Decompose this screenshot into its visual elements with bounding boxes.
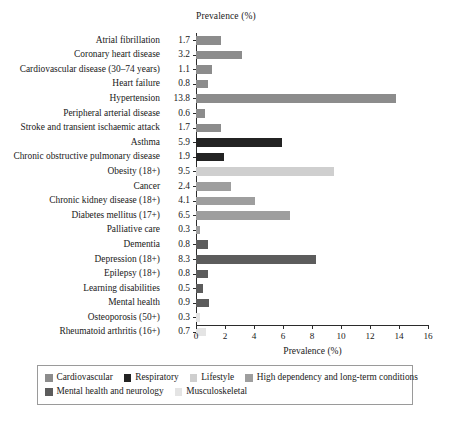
x-tick-label: 16: [423, 331, 432, 341]
x-axis-ticks: 0246810121416: [196, 325, 429, 347]
bar-row: Dementia0.8: [0, 237, 450, 252]
x-tick: [196, 325, 197, 329]
legend-swatch-icon: [245, 374, 253, 382]
category-label: Osteoporosis (50+): [0, 313, 160, 322]
value-label: 0.8: [160, 240, 196, 249]
category-label: Epilepsy (18+): [0, 269, 160, 278]
legend-swatch-icon: [45, 374, 53, 382]
bar-row: Peripheral arterial disease0.6: [0, 106, 450, 121]
category-label: Chronic kidney disease (18+): [0, 196, 160, 205]
x-tick-label: 12: [365, 331, 374, 341]
bar-cell: [196, 267, 450, 282]
bar-cell: [196, 310, 450, 325]
legend-label: Mental health and neurology: [57, 387, 164, 396]
x-tick: [341, 325, 342, 329]
bar-cell: [196, 106, 450, 121]
legend-item[interactable]: Cardiovascular: [45, 373, 113, 382]
category-label: Cancer: [0, 182, 160, 191]
x-tick: [312, 325, 313, 329]
bar: [196, 197, 255, 206]
bar: [196, 124, 221, 133]
x-tick-label: 8: [310, 331, 315, 341]
value-label: 3.2: [160, 50, 196, 59]
bar: [196, 36, 221, 45]
bar-cell: [196, 223, 450, 238]
bar-cell: [196, 135, 450, 150]
bar-rows: Atrial fibrillation1.7Coronary heart dis…: [0, 33, 450, 325]
bar-row: Chronic obstructive pulmonary disease1.9: [0, 150, 450, 165]
bar-cell: [196, 194, 450, 209]
top-axis-title: Prevalence (%): [196, 11, 256, 21]
bar-cell: [196, 179, 450, 194]
bar: [196, 240, 208, 249]
x-tick: [254, 325, 255, 329]
bar-cell: [196, 237, 450, 252]
bar-cell: [196, 252, 450, 267]
category-label: Coronary heart disease: [0, 50, 160, 59]
legend-item[interactable]: Musculoskeletal: [175, 387, 247, 396]
legend-item[interactable]: High dependency and long-term conditions: [245, 373, 418, 382]
category-label: Atrial fibrillation: [0, 36, 160, 45]
bar-row: Depression (18+)8.3: [0, 252, 450, 267]
value-label: 0.3: [160, 225, 196, 234]
prevalence-bar-chart: Prevalence (%) Atrial fibrillation1.7Cor…: [0, 0, 450, 424]
bar-row: Palliative care0.3: [0, 223, 450, 238]
x-tick: [399, 325, 400, 329]
bottom-axis-title: Prevalence (%): [196, 346, 429, 356]
bar-row: Epilepsy (18+)0.8: [0, 267, 450, 282]
category-label: Asthma: [0, 138, 160, 147]
bar: [196, 109, 205, 118]
bar-row: Mental health0.9: [0, 296, 450, 311]
value-label: 9.5: [160, 167, 196, 176]
legend-swatch-icon: [45, 388, 53, 396]
x-tick: [428, 325, 429, 329]
category-label: Palliative care: [0, 225, 160, 234]
value-label: 0.9: [160, 298, 196, 307]
value-label: 0.8: [160, 269, 196, 278]
bar-cell: [196, 91, 450, 106]
bar-row: Chronic kidney disease (18+)4.1: [0, 194, 450, 209]
legend-item[interactable]: Mental health and neurology: [45, 387, 164, 396]
category-label: Diabetes mellitus (17+): [0, 211, 160, 220]
category-label: Cardiovascular disease (30–74 years): [0, 65, 160, 74]
bar-cell: [196, 150, 450, 165]
value-label: 1.9: [160, 152, 196, 161]
legend-item[interactable]: Respiratory: [124, 373, 179, 382]
legend-item[interactable]: Lifestyle: [190, 373, 235, 382]
x-tick-label: 4: [252, 331, 257, 341]
chart-legend: CardiovascularRespiratoryLifestyleHigh d…: [37, 365, 413, 405]
bar-row: Stroke and transient ischaemic attack1.7: [0, 121, 450, 136]
bar-row: Osteoporosis (50+)0.3: [0, 310, 450, 325]
bar-cell: [196, 121, 450, 136]
bar-cell: [196, 48, 450, 63]
bar-cell: [196, 208, 450, 223]
value-label: 0.6: [160, 109, 196, 118]
legend-row: Mental health and neurologyMusculoskelet…: [45, 385, 405, 399]
bar-cell: [196, 62, 450, 77]
value-label: 1.7: [160, 36, 196, 45]
value-label: 0.3: [160, 313, 196, 322]
category-label: Chronic obstructive pulmonary disease: [0, 152, 160, 161]
bar-row: Hypertension13.8: [0, 91, 450, 106]
value-label: 4.1: [160, 196, 196, 205]
legend-label: Musculoskeletal: [186, 387, 247, 396]
bar: [196, 80, 208, 89]
category-label: Depression (18+): [0, 255, 160, 264]
category-label: Rheumatoid arthritis (16+): [0, 327, 160, 336]
bar-row: Asthma5.9: [0, 135, 450, 150]
bar-row: Heart failure0.8: [0, 77, 450, 92]
category-label: Mental health: [0, 298, 160, 307]
value-label: 1.7: [160, 123, 196, 132]
bar-cell: [196, 33, 450, 48]
bar-row: Atrial fibrillation1.7: [0, 33, 450, 48]
legend-row: CardiovascularRespiratoryLifestyleHigh d…: [45, 371, 405, 385]
bar-cell: [196, 164, 450, 179]
value-label: 0.8: [160, 79, 196, 88]
bar: [196, 211, 290, 220]
bar: [196, 255, 316, 264]
bar: [196, 153, 224, 162]
bar: [196, 284, 203, 293]
value-label: 13.8: [160, 94, 196, 103]
x-tick-label: 14: [394, 331, 403, 341]
bar: [196, 299, 209, 308]
